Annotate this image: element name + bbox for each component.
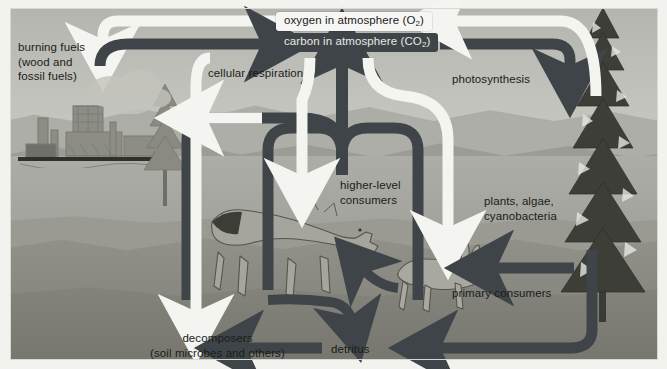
arrow-oxygen-to-decomposers <box>196 58 210 318</box>
label-detritus: detritus <box>331 342 370 357</box>
label-decomposers: decomposers (soil microbes and others) <box>150 331 285 360</box>
oxygen-paren: ) <box>420 14 424 26</box>
carbon-reservoir-label: carbon in atmosphere (CO <box>284 35 422 47</box>
carbon-reservoir-box[interactable]: carbon in atmosphere (CO2) <box>276 33 438 52</box>
arrow-oxygen-to-primary-consumers <box>368 58 448 234</box>
arrow-carbon-to-photosynthesis <box>440 44 570 72</box>
carbon-cycle-diagram: oxygen in atmosphere (O2) carbon in atmo… <box>0 0 667 369</box>
arrow-plants-to-carbon <box>342 128 418 300</box>
label-burning-fuels: burning fuels (wood and fossil fuels) <box>18 40 85 84</box>
arrow-consumers-to-detritus <box>268 299 352 322</box>
smoke-icon <box>82 52 178 114</box>
arrow-primary-to-higher-consumers <box>362 268 398 288</box>
label-plants-algae: plants, algae, cyanobacteria <box>484 194 557 223</box>
label-photosynthesis: photosynthesis <box>452 72 530 87</box>
label-primary-consumers: primary consumers <box>452 286 551 301</box>
label-higher-level-consumers: higher-level consumers <box>340 178 401 207</box>
carbon-paren: ) <box>426 35 430 47</box>
label-cellular-respiration: cellular respiration <box>208 66 303 81</box>
oxygen-reservoir-label: oxygen in atmosphere (O <box>284 14 415 26</box>
oxygen-reservoir-box[interactable]: oxygen in atmosphere (O2) <box>276 12 432 31</box>
